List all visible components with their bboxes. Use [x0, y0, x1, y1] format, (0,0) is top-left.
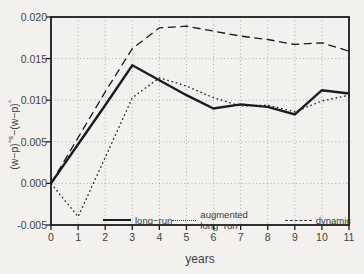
dotted-line-sample-icon: [172, 220, 196, 221]
x-tick-label: 9: [292, 231, 298, 243]
x-tick-label: 1: [75, 231, 81, 243]
legend-item-augmented-long-run: augmented long−run: [172, 209, 284, 231]
x-tick-label: 7: [238, 231, 244, 243]
plot-area: [0, 0, 364, 274]
x-tick-label: 6: [211, 231, 217, 243]
legend-item-dynamic: dynamic: [285, 215, 351, 226]
x-tick-label: 3: [129, 231, 135, 243]
dashed-line-sample-icon: [285, 220, 312, 221]
y-axis-title-sup2: ^: [6, 100, 15, 104]
legend-item-long-run: long−run: [103, 215, 172, 226]
x-tick-label: 10: [316, 231, 328, 243]
x-tick-label: 8: [265, 231, 271, 243]
legend: long−run augmented long−run dynamic: [103, 209, 351, 231]
line-chart-figure: 0.0200.0150.0100.0050.000-0.005 01234567…: [0, 0, 364, 274]
legend-label-augmented-long-run: augmented long−run: [200, 209, 284, 231]
y-axis-title-base1: (w−p): [8, 143, 20, 170]
y-tick-label: 0.020: [7, 11, 47, 23]
x-tick-label: 4: [156, 231, 162, 243]
x-tick-label: 5: [184, 231, 190, 243]
x-tick-label: 11: [344, 231, 355, 243]
y-tick-label: 0.015: [7, 53, 47, 65]
legend-label-long-run: long−run: [135, 215, 172, 226]
y-axis-title-sup1: ^s: [6, 136, 15, 143]
solid-line-sample-icon: [103, 219, 131, 221]
x-tick-label: 0: [48, 231, 54, 243]
series-solid: [51, 65, 349, 183]
x-tick-label: 2: [102, 231, 108, 243]
y-axis-title-base2: −(w−p): [8, 103, 20, 136]
y-tick-label: -0.005: [7, 219, 47, 231]
x-axis-title: years: [51, 252, 349, 266]
legend-label-dynamic: dynamic: [316, 215, 351, 226]
y-axis-title: (w−p)^s−(w−p)^: [6, 80, 20, 190]
series-dotted: [51, 78, 349, 217]
